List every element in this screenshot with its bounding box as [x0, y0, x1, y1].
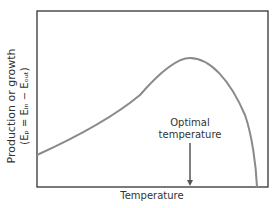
- plot-frame: [37, 11, 268, 187]
- y-axis-formula: (Eₚ = Eᵢₙ − Eₒᵤₜ): [18, 31, 31, 181]
- optimal-temperature-annotation: Optimal temperature: [150, 117, 230, 141]
- y-axis-label: Production or growth (Eₚ = Eᵢₙ − Eₒᵤₜ): [5, 31, 33, 181]
- chart-container: Production or growth (Eₚ = Eᵢₙ − Eₒᵤₜ) O…: [0, 0, 276, 208]
- plot-svg: [0, 0, 276, 208]
- x-axis-label: Temperature: [100, 190, 204, 201]
- annotation-line2: temperature: [150, 129, 230, 141]
- y-axis-label-line1: Production or growth: [5, 31, 18, 181]
- annotation-line1: Optimal: [150, 117, 230, 129]
